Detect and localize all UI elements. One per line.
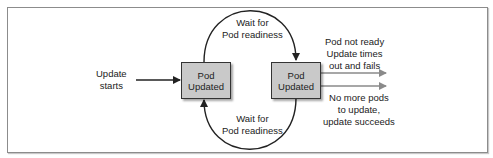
label-line: Wait for (222, 113, 283, 125)
label-line: to update, (323, 104, 395, 116)
label-line: starts (96, 80, 127, 92)
wait-readiness-lower-label: Wait for Pod readiness (222, 113, 283, 137)
label-line: out and fails (325, 60, 384, 72)
label-line: Update (96, 68, 127, 80)
label-line: Update times (325, 48, 384, 60)
label-line: No more pods (323, 92, 395, 104)
update-succeeds-label: No more pods to update, update succeeds (323, 92, 395, 128)
node-label-line: Updated (278, 81, 314, 92)
label-line: Pod readiness (222, 29, 283, 41)
pod-updated-node-2: Pod Updated (271, 62, 321, 99)
node-label-line: Pod (198, 70, 215, 81)
wait-readiness-upper-label: Wait for Pod readiness (222, 17, 283, 41)
update-fails-label: Pod not ready Update times out and fails (325, 36, 384, 72)
label-line: update succeeds (323, 116, 395, 128)
node-label-line: Pod (288, 70, 305, 81)
label-line: Pod readiness (222, 125, 283, 137)
label-line: Wait for (222, 17, 283, 29)
update-starts-label: Update starts (96, 68, 127, 92)
pod-updated-node-1: Pod Updated (181, 62, 231, 99)
node-label-line: Updated (188, 81, 224, 92)
label-line: Pod not ready (325, 36, 384, 48)
